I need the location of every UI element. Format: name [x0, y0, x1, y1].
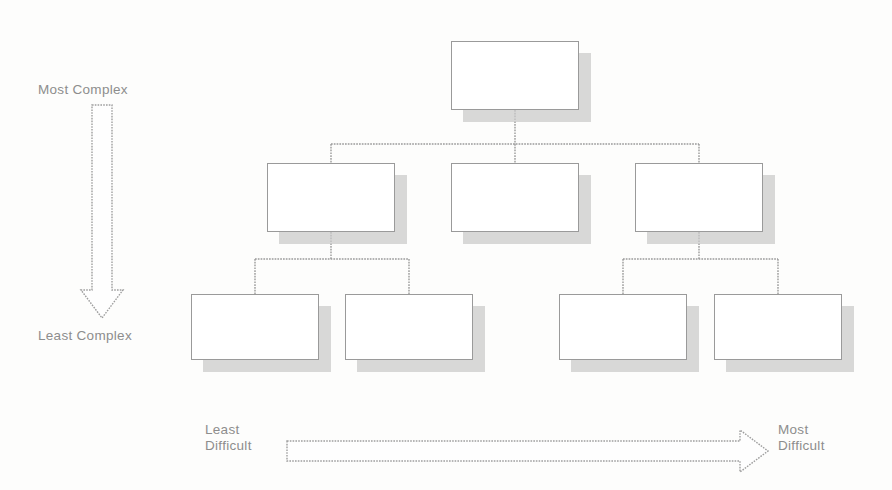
- tree-node-n2[interactable]: [267, 163, 395, 232]
- tree-node-n6[interactable]: [345, 294, 473, 360]
- tree-node-n4[interactable]: [635, 163, 763, 232]
- tree-node-n5[interactable]: [191, 294, 319, 360]
- tree-node-n7[interactable]: [559, 294, 687, 360]
- tree-node-n1[interactable]: [451, 41, 579, 110]
- tree-node-n8[interactable]: [714, 294, 842, 360]
- tree-node-n3[interactable]: [451, 163, 579, 232]
- tree-connectors: [0, 0, 892, 490]
- diagram-canvas: Most Complex Least Complex Least Difficu…: [0, 0, 892, 490]
